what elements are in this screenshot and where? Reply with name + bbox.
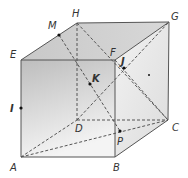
label-F: F [110,47,116,58]
label-I: I [10,103,14,114]
label-P: P [117,136,124,147]
label-E: E [10,49,17,60]
point-I [19,106,22,109]
stray-mark [148,74,150,76]
point-M [57,33,60,36]
label-K: K [92,73,101,84]
label-B: B [113,162,120,173]
label-M: M [48,20,57,31]
label-G: G [171,11,179,22]
label-A: A [9,162,17,173]
label-D: D [75,123,83,134]
cube-diagram: A B C D E F G H I J K M P [0,0,188,178]
point-P [118,129,121,132]
label-H: H [72,8,80,19]
front-face-ABFE [21,60,115,157]
label-C: C [172,122,179,133]
